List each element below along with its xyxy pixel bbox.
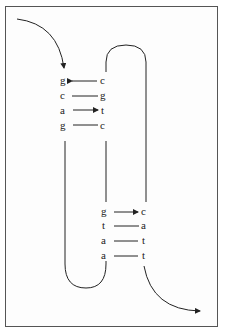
base-right: c bbox=[100, 74, 105, 86]
base-right: c bbox=[141, 205, 146, 217]
base-right: t bbox=[142, 234, 145, 246]
bottom-stem: g c t a a t a t bbox=[101, 205, 146, 261]
base-right: a bbox=[141, 219, 146, 231]
dna-hairpin-diagram: g c c g a t g c g c t a a t a t bbox=[0, 0, 227, 332]
base-right: t bbox=[101, 104, 104, 116]
left-strand bbox=[65, 141, 106, 288]
base-left: g bbox=[101, 205, 107, 217]
base-left: g bbox=[60, 119, 66, 131]
curved-arrow-right-icon bbox=[144, 266, 200, 311]
base-right: t bbox=[142, 249, 145, 261]
base-right: g bbox=[100, 89, 106, 101]
base-left: c bbox=[60, 89, 65, 101]
curved-arrow-down-icon bbox=[17, 19, 64, 68]
base-left: a bbox=[60, 104, 65, 116]
top-loop bbox=[106, 45, 146, 202]
base-left: a bbox=[101, 234, 106, 246]
base-left: t bbox=[102, 219, 105, 231]
base-left: a bbox=[101, 249, 106, 261]
base-left: g bbox=[60, 74, 66, 86]
top-stem: g c c g a t g c bbox=[60, 74, 106, 131]
base-right: c bbox=[100, 119, 105, 131]
